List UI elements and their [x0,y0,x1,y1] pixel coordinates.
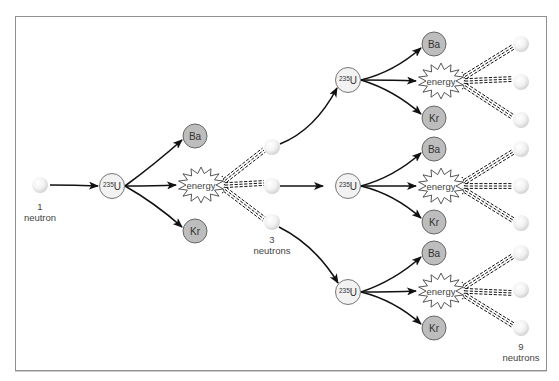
arrow-to-ba [361,257,421,292]
neutron-generation-2-middle [513,215,529,231]
initial-neutron-unit: neutron [24,212,56,223]
element-symbol: U [350,287,357,298]
mass-number: 235 [339,287,350,294]
krypton-nucleus: Kr [422,210,446,234]
gamma-ray-dash [466,49,514,79]
neutron-generation-2-top [513,36,529,52]
gamma-ray-dash [465,77,513,79]
gen2-neutron-count: 3 [269,234,274,245]
energy-burst-generation-2-bottom: energy [419,273,464,309]
krypton-nucleus-label: Kr [429,323,440,334]
energy-rays-generation-2-top [462,45,514,119]
energy-label: energy [426,286,455,297]
arrow-to-ba [361,153,421,186]
mass-number: 235 [103,181,114,188]
initial-neutron-count: 1 [37,201,42,212]
gamma-ray-dash [466,188,514,218]
arrow-initial-neutron [50,185,98,186]
barium-nucleus-label: Ba [189,131,202,142]
neutron-generation-2-top [513,112,529,128]
gamma-ray-dash [464,88,512,119]
energy-label: energy [426,76,455,87]
neutron-generation-1 [264,214,280,230]
barium-nucleus-label: Ba [428,39,441,50]
gamma-ray-dash [224,191,263,221]
gen3-neutron-count: 9 [518,341,523,352]
gamma-ray-dash [226,152,265,182]
gamma-ray-dash [465,291,513,293]
arrow-to-kr [125,186,182,227]
gamma-ray-dash [465,79,513,81]
neutron-generation-2-top [513,74,529,90]
gamma-ray-dash [465,81,513,83]
energy-rays-generation-1 [222,148,265,221]
arrow-to-kr [361,292,421,324]
gamma-ray-dash [466,293,514,323]
uranium-235-generation-2-top: 235U [336,68,361,93]
gamma-ray-dash [465,288,513,290]
neutron-generation-2-middle [513,178,529,194]
element-symbol: U [350,75,357,86]
barium-nucleus: Ba [422,137,446,161]
uranium-235-generation-2-bottom: 235U [336,280,361,305]
krypton-nucleus: Kr [183,219,207,243]
gamma-ray-dash [465,47,513,77]
gamma-ray-dash [464,192,512,222]
gamma-ray-dash [466,258,514,288]
gen2-neutron-unit: neutrons [254,245,291,256]
neutron-generation-2-bottom [513,245,529,261]
arrow-to-energy [361,291,416,292]
fission-chain-diagram: 235UBaKrenergy235UBaKrenergy235UBaKrener… [0,0,559,381]
arrow-to-kr [361,80,421,114]
arrow-to-energy [125,185,176,186]
barium-nucleus-label: Ba [428,144,441,155]
gamma-ray-dash [465,295,513,325]
energy-rays-generation-2-middle [462,150,514,222]
gamma-ray-dash [465,152,513,182]
gamma-ray-dash [465,293,513,295]
gamma-ray-dash [224,148,263,178]
uranium-235-generation-1: 235U [100,174,125,199]
gamma-ray-dash [225,189,264,219]
gamma-ray-dash [464,297,512,327]
neutron-generation-2-bottom [513,320,529,336]
gamma-ray-dash [464,254,512,284]
neutron-generation-1 [264,139,280,155]
arrow-to-ba [361,48,421,80]
gamma-ray-dash [225,150,264,180]
gamma-ray-dash [225,185,264,187]
neutron-generation-2-bottom [513,282,529,298]
gamma-ray-dash [464,45,512,75]
gamma-ray-dash [466,84,514,115]
gamma-ray-dash [464,150,512,180]
krypton-nucleus: Kr [422,106,446,130]
energy-burst-generation-2-middle: energy [419,168,464,204]
krypton-nucleus-label: Kr [429,113,440,124]
mass-number: 235 [339,181,350,188]
arrow-to-ba [125,140,182,186]
energy-label: energy [186,180,215,191]
barium-nucleus: Ba [422,241,446,265]
uranium-235-generation-2-middle: 235U [336,174,361,199]
energy-burst-generation-1: energy [179,167,224,203]
arrow-to-kr [361,186,421,218]
energy-burst-generation-2-top: energy [419,63,464,99]
barium-nucleus-label: Ba [428,248,441,259]
krypton-nucleus: Kr [422,316,446,340]
element-symbol: U [114,181,121,192]
neutron-generation-1 [264,178,280,194]
initial-neutron [32,177,48,193]
energy-label: energy [426,181,455,192]
gamma-ray-dash [465,86,513,117]
mass-number: 235 [339,75,350,82]
diagram-canvas: 235UBaKrenergy235UBaKrenergy235UBaKrener… [0,0,559,381]
gamma-ray-dash [225,181,264,183]
krypton-nucleus-label: Kr [190,226,201,237]
gen3-neutron-unit: neutrons [503,352,540,363]
gamma-ray-dash [466,154,514,184]
arrow-neutron-to-top-u235 [280,88,337,144]
barium-nucleus: Ba [422,32,446,56]
gamma-ray-dash [226,188,265,218]
gamma-ray-dash [465,256,513,286]
krypton-nucleus-label: Kr [429,217,440,228]
